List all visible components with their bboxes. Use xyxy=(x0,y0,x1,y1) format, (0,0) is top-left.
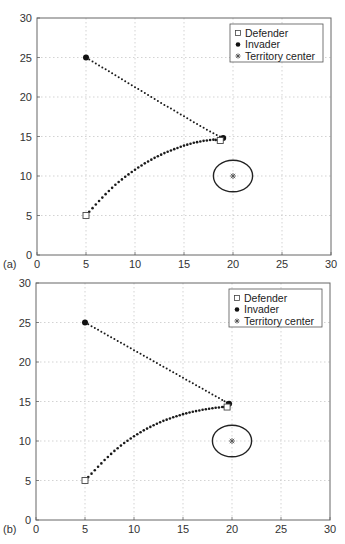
legend: DefenderInvaderTerritory center xyxy=(229,289,322,327)
x-tick-label: 5 xyxy=(83,258,89,270)
y-tick-label: 30 xyxy=(20,12,32,24)
legend-label: Invader xyxy=(244,303,280,315)
y-tick-label: 10 xyxy=(20,170,32,182)
defender-end-marker xyxy=(217,137,223,143)
chart-panel-a: 051015202530051015202530(a)DefenderInvad… xyxy=(0,0,345,272)
chart-panel-b: 051015202530051015202530(b)DefenderInvad… xyxy=(0,272,345,544)
y-tick-label: 5 xyxy=(25,475,31,487)
square-icon xyxy=(236,31,241,36)
y-tick-label: 5 xyxy=(26,210,32,222)
defender-start-marker xyxy=(83,213,89,219)
y-tick-label: 25 xyxy=(20,52,32,64)
legend-label: Defender xyxy=(244,292,288,304)
circle-icon xyxy=(236,42,241,47)
panel-label: (a) xyxy=(3,258,16,270)
x-tick-label: 0 xyxy=(33,523,39,535)
asterisk-icon xyxy=(229,438,235,444)
invader-start-marker xyxy=(83,55,89,61)
defender-end-marker xyxy=(224,404,230,410)
x-tick-label: 25 xyxy=(276,258,288,270)
x-tick-label: 20 xyxy=(226,523,238,535)
invader-start-marker xyxy=(82,320,88,326)
asterisk-icon xyxy=(235,53,240,58)
panel-label: (b) xyxy=(3,523,16,535)
legend-label: Territory center xyxy=(245,50,316,62)
x-tick-label: 5 xyxy=(82,523,88,535)
series-invader xyxy=(82,320,232,407)
y-tick-label: 20 xyxy=(20,91,32,103)
asterisk-icon xyxy=(230,173,236,179)
series-invader xyxy=(83,55,226,142)
legend-label: Defender xyxy=(245,27,289,39)
x-tick-label: 20 xyxy=(227,258,239,270)
x-tick-label: 15 xyxy=(178,258,190,270)
y-tick-label: 30 xyxy=(19,277,31,289)
y-tick-label: 15 xyxy=(19,396,31,408)
legend: DefenderInvaderTerritory center xyxy=(230,24,323,62)
circle-icon xyxy=(235,307,240,312)
y-tick-label: 0 xyxy=(25,514,31,526)
defender-start-marker xyxy=(82,478,88,484)
y-tick-label: 25 xyxy=(19,317,31,329)
x-tick-label: 0 xyxy=(34,258,40,270)
y-tick-label: 20 xyxy=(19,356,31,368)
x-tick-label: 30 xyxy=(325,258,337,270)
series-defender xyxy=(82,404,230,483)
series-defender xyxy=(83,137,223,218)
x-tick-label: 10 xyxy=(128,523,140,535)
legend-label: Invader xyxy=(245,38,281,50)
x-tick-label: 10 xyxy=(129,258,141,270)
square-icon xyxy=(235,296,240,301)
asterisk-icon xyxy=(234,318,239,323)
y-tick-label: 0 xyxy=(26,249,32,261)
legend-label: Territory center xyxy=(244,315,315,327)
y-tick-label: 15 xyxy=(20,131,32,143)
y-tick-label: 10 xyxy=(19,435,31,447)
chart-svg-a: 051015202530051015202530(a)DefenderInvad… xyxy=(0,0,345,272)
x-tick-label: 25 xyxy=(275,523,287,535)
x-tick-label: 30 xyxy=(324,523,336,535)
chart-svg-b: 051015202530051015202530(b)DefenderInvad… xyxy=(0,272,345,544)
x-tick-label: 15 xyxy=(177,523,189,535)
